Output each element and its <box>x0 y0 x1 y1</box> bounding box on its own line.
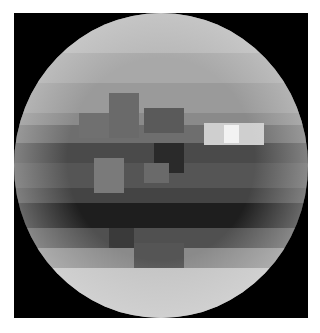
limb-brightening <box>14 13 308 318</box>
globe-image <box>14 13 308 318</box>
